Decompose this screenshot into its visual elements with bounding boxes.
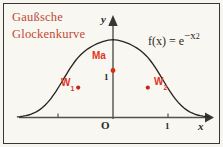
label-maximum-point: Ma — [92, 51, 106, 61]
label-inflection-left-subscript: 1 — [70, 85, 74, 92]
point-marker-inflection-left — [76, 86, 80, 90]
figure-title-line-2: Glockenkurve — [12, 28, 85, 41]
figure-title-line-1: Gaußsche — [12, 11, 63, 24]
label-inflection-right: W2 — [154, 77, 167, 89]
label-inflection-left: W1 — [61, 78, 74, 90]
y-tick-label-one: 1 — [104, 73, 109, 82]
formula-exponent-power: 2 — [196, 32, 200, 41]
x-axis-label: x — [198, 121, 204, 132]
x-axis-arrowhead — [205, 113, 214, 123]
x-tick-label-one: 1 — [165, 122, 170, 131]
formula-lhs: f(x) = e — [148, 34, 184, 48]
origin-label: O — [101, 120, 110, 131]
label-maximum-text: Ma — [92, 50, 106, 61]
gaussian-curve-figure: Gaußsche Glockenkurve f(x) = e−x2 y x O … — [0, 0, 223, 147]
y-axis-label: y — [101, 14, 106, 25]
point-marker-maximum — [111, 68, 116, 73]
function-formula: f(x) = e−x2 — [148, 31, 200, 47]
y-axis-arrowhead — [108, 15, 117, 26]
point-marker-inflection-right — [146, 86, 150, 90]
label-inflection-right-subscript: 2 — [163, 84, 167, 91]
formula-exponent-base: x — [190, 29, 196, 41]
